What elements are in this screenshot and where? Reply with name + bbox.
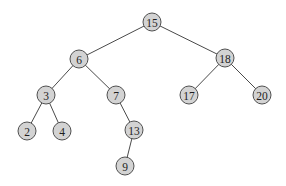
tree-node-7: 7 xyxy=(107,86,125,104)
node-label: 2 xyxy=(24,126,30,138)
tree-node-15: 15 xyxy=(143,13,161,31)
tree-node-17: 17 xyxy=(180,86,198,104)
tree-edge-15-6 xyxy=(79,22,152,59)
tree-node-9: 9 xyxy=(116,157,134,175)
tree-node-13: 13 xyxy=(125,121,143,139)
tree-node-4: 4 xyxy=(53,122,71,140)
tree-node-3: 3 xyxy=(37,86,55,104)
node-label: 17 xyxy=(183,90,195,102)
nodes-layer: 1561837172024139 xyxy=(18,13,271,175)
node-label: 4 xyxy=(59,126,65,138)
tree-node-6: 6 xyxy=(70,50,88,68)
node-label: 18 xyxy=(219,53,231,65)
tree-edge-15-18 xyxy=(152,22,225,58)
node-label: 15 xyxy=(146,17,158,29)
node-label: 6 xyxy=(76,54,82,66)
node-label: 3 xyxy=(43,90,49,102)
node-label: 13 xyxy=(128,125,140,137)
tree-node-20: 20 xyxy=(253,86,271,104)
tree-node-2: 2 xyxy=(18,122,36,140)
node-label: 7 xyxy=(113,90,119,102)
node-label: 9 xyxy=(122,161,128,173)
edges-layer xyxy=(27,22,262,166)
node-label: 20 xyxy=(256,90,268,102)
tree-node-18: 18 xyxy=(216,49,234,67)
binary-tree-diagram: 1561837172024139 xyxy=(0,0,286,186)
